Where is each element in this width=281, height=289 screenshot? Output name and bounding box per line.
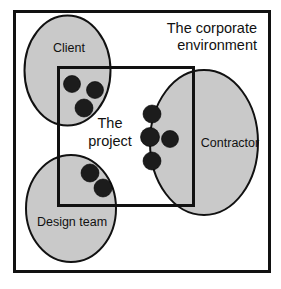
corporate-environment-diagram: The corporate environment Client Contrac… xyxy=(0,0,281,289)
design-team-member-dot xyxy=(94,179,112,197)
contractor-member-dot xyxy=(143,105,161,123)
project-label-line2: project xyxy=(88,133,132,149)
corporate-environment-label-line1: The corporate xyxy=(167,20,257,36)
contractor-member-dot xyxy=(143,152,161,170)
client-member-dot xyxy=(64,76,81,93)
contractor-group-label: Contractor xyxy=(201,136,259,150)
project-label-line1: The xyxy=(98,115,123,131)
client-member-dot xyxy=(75,99,93,117)
client-member-dot xyxy=(87,82,104,99)
diagram-canvas: The corporate environment Client Contrac… xyxy=(0,0,281,289)
design-team-group-ellipse[interactable] xyxy=(26,155,116,262)
client-group-ellipse[interactable] xyxy=(25,16,111,126)
contractor-member-dot xyxy=(162,131,179,148)
corporate-environment-label-line2: environment xyxy=(177,37,257,53)
design-team-member-dot xyxy=(81,164,99,182)
contractor-member-dot xyxy=(141,128,160,147)
client-group-label: Client xyxy=(53,41,85,55)
design-team-group-label: Design team xyxy=(37,215,107,229)
